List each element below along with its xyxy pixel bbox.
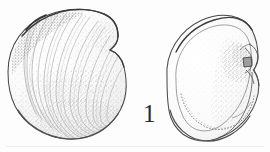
right-specimen-interior-view xyxy=(160,0,270,152)
left-specimen-exterior-view xyxy=(0,0,140,152)
right-valve-cardinal-tooth xyxy=(243,57,252,67)
illustration-plate: 1 xyxy=(0,0,270,152)
figure-number-label: 1 xyxy=(143,101,156,126)
plate-drawing xyxy=(0,0,270,152)
